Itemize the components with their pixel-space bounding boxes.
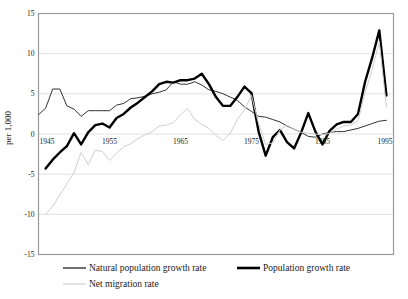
y-tick-label: -5 — [28, 170, 34, 179]
y-tick-label: -15 — [25, 250, 35, 259]
chart-container: 151050-5-10-15 194519551965197519851995 … — [0, 0, 408, 299]
population-growth-line-chart: 151050-5-10-15 194519551965197519851995 … — [0, 0, 408, 299]
x-tick-label: 1975 — [244, 137, 259, 146]
x-tick-label: 1945 — [40, 137, 55, 146]
y-tick-label: 0 — [31, 130, 35, 139]
y-axis-title-text: per 1,000 — [3, 111, 13, 145]
legend-label: Net migration rate — [89, 279, 159, 289]
y-tick-label: 10 — [27, 49, 35, 58]
x-tick-label: 1965 — [173, 137, 188, 146]
y-axis-title: per 1,000 — [3, 111, 13, 145]
legend-label: Population growth rate — [263, 263, 350, 273]
y-tick-label: -10 — [25, 210, 35, 219]
x-tick-label: 1955 — [102, 137, 117, 146]
legend-label: Natural population growth rate — [89, 263, 206, 273]
y-tick-label: 5 — [31, 89, 35, 98]
y-tick-label: 15 — [27, 9, 35, 18]
x-tick-label: 1995 — [378, 137, 393, 146]
